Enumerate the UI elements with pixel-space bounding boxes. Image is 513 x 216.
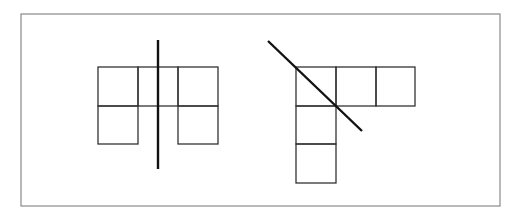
diagonal-symmetry-line [268, 41, 362, 131]
unit-square [376, 67, 415, 106]
unit-square [98, 67, 138, 106]
unit-square [336, 67, 376, 106]
unit-square [98, 106, 138, 144]
right-figure [268, 41, 415, 183]
left-figure [98, 40, 218, 169]
symmetry-diagram [0, 0, 513, 216]
unit-square [178, 106, 218, 144]
diagram-frame [21, 14, 500, 206]
unit-square [178, 67, 218, 106]
unit-square [296, 144, 336, 183]
unit-square [296, 106, 336, 144]
